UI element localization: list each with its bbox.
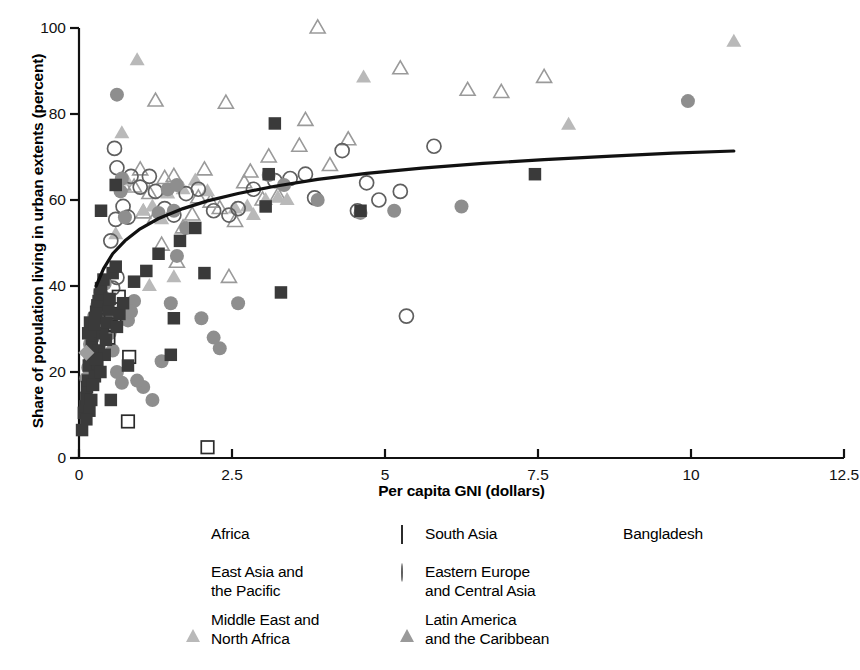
data-point: [122, 415, 134, 428]
legend-label: Latin America and the Caribbean: [425, 610, 549, 648]
data-point: [322, 158, 337, 171]
data-point: [726, 34, 741, 47]
data-point: [537, 69, 552, 82]
data-point: [356, 69, 371, 82]
data-point: [201, 441, 214, 454]
x-axis-tick-label: 12.5: [829, 466, 859, 484]
data-point: [117, 297, 129, 310]
legend-marker-circle-open-icon: [400, 564, 416, 580]
data-point: [275, 286, 288, 299]
legend-entry[interactable]: Africa: [186, 524, 249, 543]
data-point: [213, 341, 227, 355]
legend-entry[interactable]: South Asia: [400, 524, 497, 543]
y-axis-title: Share of population living in urban exte…: [29, 21, 47, 461]
data-point: [114, 125, 129, 138]
y-axis-tick-label: 60: [14, 191, 66, 209]
data-point: [103, 293, 116, 306]
legend-marker-square-filled-icon: [186, 526, 202, 542]
data-point: [109, 260, 122, 273]
data-point: [88, 318, 101, 331]
legend-marker-circle-filled-icon: [186, 564, 202, 580]
data-point: [427, 139, 441, 153]
legend-label: Middle East and North Africa: [211, 610, 319, 648]
data-point: [107, 141, 121, 155]
data-point: [128, 275, 141, 288]
data-point: [102, 303, 115, 316]
data-point: [393, 61, 408, 74]
scatter-plot-figure: Share of population living in urban exte…: [0, 0, 860, 670]
data-point: [164, 296, 178, 310]
legend-label: South Asia: [425, 524, 497, 543]
data-point: [189, 222, 202, 235]
data-point: [311, 193, 325, 207]
data-point: [197, 162, 212, 175]
legend-marker-diamond-filled-icon: [598, 526, 614, 542]
data-point: [152, 248, 165, 261]
data-point: [110, 88, 124, 102]
data-point: [130, 374, 144, 388]
x-axis-tick-label: 10: [682, 466, 699, 484]
data-point: [194, 311, 208, 325]
data-point: [455, 199, 469, 213]
x-axis-tick-label: 2.5: [221, 466, 243, 484]
y-axis-tick-label: 100: [14, 19, 66, 37]
data-point: [145, 393, 159, 407]
chart-plot-area: Share of population living in urban exte…: [0, 0, 860, 510]
data-point: [681, 94, 695, 108]
circle-open-icon: [401, 563, 403, 582]
legend-entry[interactable]: Latin America and the Caribbean: [400, 610, 549, 648]
data-point: [130, 52, 145, 65]
data-point: [111, 321, 124, 334]
data-point: [168, 312, 181, 325]
data-point: [113, 308, 126, 321]
data-point: [170, 249, 184, 263]
data-point: [269, 117, 282, 129]
y-axis-tick-label: 80: [14, 105, 66, 123]
series-middle-east-and-north-africa: [108, 34, 741, 291]
data-point: [259, 200, 272, 213]
legend-entry[interactable]: Eastern Europe and Central Asia: [400, 562, 536, 600]
plot-canvas: [0, 0, 860, 510]
data-point: [354, 205, 367, 218]
trend-line: [96, 151, 734, 286]
x-axis-title: Per capita GNI (dollars): [79, 482, 844, 500]
legend-entry[interactable]: East Asia and the Pacific: [186, 562, 303, 600]
data-point: [85, 394, 98, 407]
data-point: [148, 93, 163, 106]
data-point: [494, 84, 509, 97]
data-point: [174, 235, 187, 248]
data-point: [108, 226, 123, 239]
square-open-icon: [401, 525, 403, 544]
data-point: [335, 144, 349, 158]
data-point: [372, 193, 386, 207]
legend-entry[interactable]: Middle East and North Africa: [186, 610, 319, 648]
data-point: [298, 112, 313, 125]
data-point: [165, 349, 178, 362]
data-point: [399, 309, 413, 323]
legend-entry[interactable]: Bangladesh: [598, 524, 703, 543]
data-point: [198, 267, 211, 280]
triangle-open-icon: [400, 612, 414, 642]
data-point: [360, 176, 374, 190]
data-point: [100, 334, 113, 347]
triangle-filled-icon: [186, 612, 200, 642]
data-point: [387, 204, 401, 218]
data-point: [118, 210, 132, 224]
legend-marker-square-open-icon: [400, 526, 416, 542]
data-point: [166, 269, 181, 282]
data-point: [87, 379, 100, 392]
data-point: [310, 20, 325, 33]
data-point: [393, 184, 407, 198]
legend-label: Africa: [211, 524, 249, 543]
data-point: [292, 138, 307, 151]
y-axis-tick-label: 20: [14, 363, 66, 381]
data-point: [122, 359, 134, 372]
data-point: [460, 82, 475, 95]
x-axis-tick-label: 5: [381, 466, 390, 484]
data-point: [231, 296, 245, 310]
data-point: [529, 168, 542, 181]
data-point: [142, 278, 157, 291]
data-point: [142, 169, 156, 183]
legend-label: Eastern Europe and Central Asia: [425, 562, 536, 600]
data-point: [170, 178, 184, 192]
